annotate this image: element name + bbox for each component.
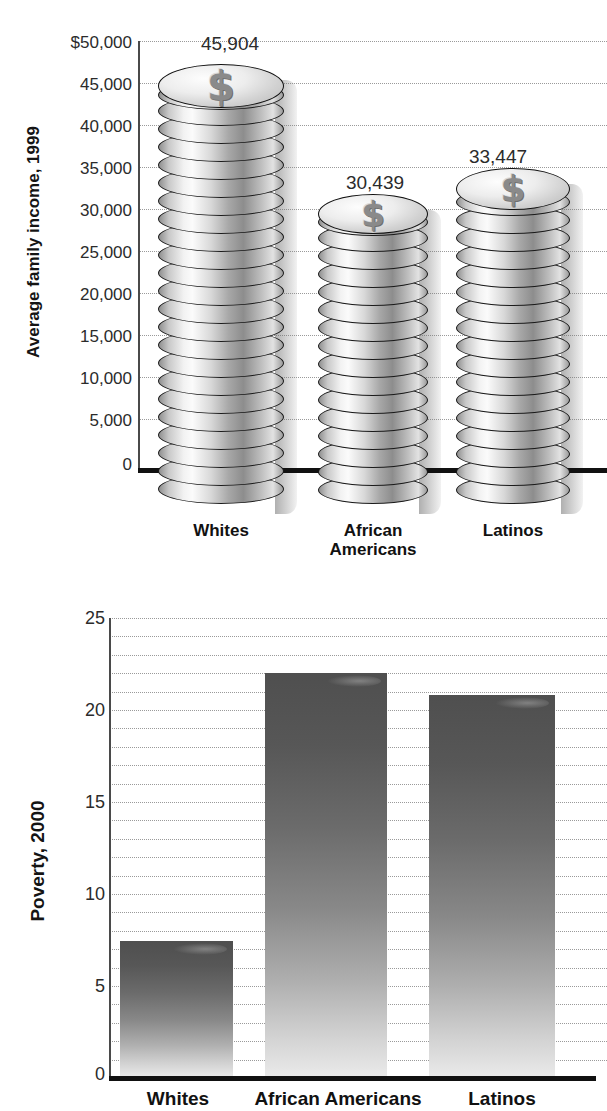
poverty-category-label-african-americans: African Americans [238, 1088, 438, 1109]
poverty-gridline [112, 655, 607, 656]
income-ytick-25000: 25,000 [20, 243, 132, 263]
coin-top-face: $ [158, 64, 284, 108]
income-ytick-0: 0 [20, 455, 132, 475]
income-value-label-african-americans: 30,439 [320, 172, 430, 194]
income-baseline [566, 468, 607, 473]
income-ytick-5000: 5,000 [20, 411, 132, 431]
income-y-axis-line [138, 41, 140, 471]
poverty-baseline [109, 1076, 596, 1081]
income-ytick-20000: 20,000 [20, 285, 132, 305]
income-ytick-45000: 45,000 [20, 75, 132, 95]
bar-highlight [495, 697, 549, 709]
income-ytick-10000: 10,000 [20, 369, 132, 389]
coin-top-face: $ [318, 194, 428, 234]
poverty-ytick-0: 0 [45, 1064, 105, 1085]
poverty-gridline [112, 618, 607, 619]
coin-stack-african-americans: $ [318, 194, 428, 512]
bar-highlight [327, 675, 381, 687]
coin-stack-body: $ [158, 64, 284, 512]
poverty-y-axis-line [109, 618, 111, 1078]
poverty-bar-african-americans [265, 673, 387, 1077]
coin-stack-body: $ [456, 168, 570, 512]
income-y-axis-title: Average family income, 1999 [24, 122, 44, 362]
category-line-1: Whites [193, 521, 249, 540]
poverty-ytick-5: 5 [45, 976, 105, 997]
poverty-ytick-25: 25 [45, 608, 105, 629]
dollar-icon: $ [207, 66, 235, 106]
poverty-chart: Poverty, 2000 25 20 15 10 5 0 Whites Afr… [0, 560, 607, 1111]
poverty-bar-latinos [429, 695, 555, 1077]
bar-highlight [173, 943, 227, 955]
income-category-label-latinos: Latinos [443, 521, 583, 540]
income-ytick-30000: 30,000 [20, 201, 132, 221]
income-chart: Average family income, 1999 $50,000 45,0… [0, 0, 607, 560]
coin-stack-whites: $ [158, 64, 284, 512]
poverty-gridline [112, 636, 607, 637]
category-line-1: African [344, 521, 403, 540]
income-baseline [424, 468, 460, 473]
income-category-label-african-americans: African Americans [303, 521, 443, 559]
poverty-category-label-latinos: Latinos [442, 1088, 562, 1109]
poverty-ytick-10: 10 [45, 884, 105, 905]
dollar-icon: $ [361, 197, 385, 231]
income-value-label-latinos: 33,447 [443, 146, 553, 168]
category-line-1: Latinos [483, 521, 543, 540]
coin-stack-latinos: $ [456, 168, 570, 512]
poverty-ytick-20: 20 [45, 700, 105, 721]
income-ytick-35000: 35,000 [20, 159, 132, 179]
income-value-label-whites: 45,904 [175, 33, 285, 55]
income-ytick-40000: 40,000 [20, 117, 132, 137]
coin-top-face: $ [456, 168, 570, 210]
income-ytick-50000: $50,000 [20, 33, 132, 53]
poverty-bar-whites [120, 941, 233, 1077]
income-ytick-15000: 15,000 [20, 327, 132, 347]
category-line-2: Americans [330, 540, 417, 559]
poverty-category-label-whites: Whites [118, 1088, 238, 1109]
income-category-label-whites: Whites [151, 521, 291, 540]
income-baseline [280, 468, 322, 473]
dollar-icon: $ [500, 171, 525, 207]
coin-stack-body: $ [318, 194, 428, 512]
poverty-ytick-15: 15 [45, 792, 105, 813]
